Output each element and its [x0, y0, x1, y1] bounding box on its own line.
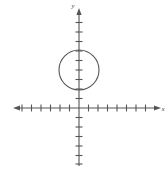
- x-axis-label: x: [160, 105, 165, 113]
- y-axis-label: y: [70, 2, 75, 10]
- y-axis-arrow-up: [76, 8, 81, 15]
- x-axis-arrow-right: [154, 105, 161, 110]
- y-axis-group: [76, 8, 83, 166]
- x-axis-arrow-left: [13, 105, 20, 110]
- x-axis-group: [13, 105, 161, 112]
- graph-canvas: y x: [0, 0, 166, 169]
- coordinate-plane-figure: y x: [0, 0, 166, 169]
